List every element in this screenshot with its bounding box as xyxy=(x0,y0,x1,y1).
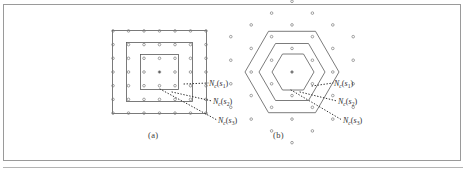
lattice-cell-marker xyxy=(311,35,314,38)
lattice-cell-marker xyxy=(332,24,335,27)
lattice-cell-marker xyxy=(332,118,335,121)
lattice-cell-marker xyxy=(205,84,208,87)
lattice-cell-marker xyxy=(291,24,294,27)
leader-a-1 xyxy=(184,83,208,84)
lattice-cell-marker xyxy=(112,84,115,87)
leader-b-3 xyxy=(291,90,342,120)
lattice-cell-marker xyxy=(158,98,161,101)
lattice-cell-marker xyxy=(230,59,233,62)
lattice-cell-marker xyxy=(158,57,161,60)
panel-a-square-lattice xyxy=(112,30,217,120)
lattice-cell-marker xyxy=(311,59,314,62)
lattice-cell-marker xyxy=(270,35,273,38)
lattice-cell-marker xyxy=(127,43,130,46)
lattice-cell-marker xyxy=(112,43,115,46)
lattice-cell-marker xyxy=(270,12,273,15)
lattice-cell-marker xyxy=(143,71,146,74)
lattice-cell-marker xyxy=(311,106,314,109)
lattice-cell-marker xyxy=(112,57,115,60)
lattice-cell-marker xyxy=(311,12,314,15)
lattice-cell-marker xyxy=(311,82,314,85)
lattice-cell-marker xyxy=(250,94,253,97)
lattice-cell-marker xyxy=(143,98,146,101)
lattice-cell-marker xyxy=(127,84,130,87)
lattice-cell-marker xyxy=(291,141,294,144)
lattice-cell-marker xyxy=(189,57,192,60)
leader-b-1 xyxy=(312,83,333,86)
lattice-cell-marker xyxy=(174,57,177,60)
lattice-cell-marker xyxy=(311,130,314,133)
lattice-cell-marker xyxy=(112,98,115,101)
lattice-cell-marker xyxy=(174,71,177,74)
lattice-cell-marker xyxy=(332,47,335,50)
label-nc-s1-panel-a: Nc(s1) xyxy=(209,79,228,89)
lattice-cell-marker xyxy=(112,71,115,74)
lattice-cell-marker xyxy=(143,43,146,46)
lattice-cell-marker xyxy=(189,71,192,74)
seed-point-a xyxy=(159,71,161,73)
panel-b-hex-lattice xyxy=(230,0,355,144)
lattice-cell-marker xyxy=(127,71,130,74)
figure-drawing xyxy=(0,0,467,174)
label-nc-s3-panel-a: Nc(s3) xyxy=(218,116,237,126)
figure-root: Nc(s1) Nc(s2) Nc(s3) Nc(s1) Nc(s2) Nc(s3… xyxy=(0,0,467,174)
label-nc-s2-panel-a: Nc(s2) xyxy=(213,97,232,107)
lattice-cell-marker xyxy=(189,98,192,101)
lattice-cell-marker xyxy=(352,35,355,38)
lattice-cell-marker xyxy=(143,57,146,60)
lattice-cell-marker xyxy=(332,94,335,97)
lattice-cell-marker xyxy=(189,43,192,46)
lattice-cell-marker xyxy=(291,47,294,50)
lattice-cell-marker xyxy=(270,106,273,109)
label-nc-s1-panel-b: Nc(s1) xyxy=(334,79,353,89)
leader-a-3 xyxy=(160,89,217,120)
lattice-cell-marker xyxy=(127,98,130,101)
caption-panel-a: (a) xyxy=(148,130,158,140)
lattice-cell-marker xyxy=(158,84,161,87)
lattice-cell-marker xyxy=(174,84,177,87)
lattice-cell-marker xyxy=(250,71,253,74)
lattice-cell-marker xyxy=(230,82,233,85)
seed-point-b xyxy=(291,71,293,73)
lattice-cell-marker xyxy=(158,43,161,46)
lattice-cell-marker xyxy=(270,59,273,62)
lattice-cell-marker xyxy=(352,59,355,62)
lattice-cell-marker xyxy=(174,98,177,101)
lattice-cell-marker xyxy=(291,94,294,97)
caption-panel-b: (b) xyxy=(273,130,284,140)
lattice-cell-marker xyxy=(250,24,253,27)
lattice-cell-marker xyxy=(174,43,177,46)
lattice-cell-marker xyxy=(250,118,253,121)
lattice-cell-marker xyxy=(127,57,130,60)
lattice-cell-marker xyxy=(230,35,233,38)
lattice-cell-marker xyxy=(143,84,146,87)
lattice-cell-marker xyxy=(189,84,192,87)
label-nc-s3-panel-b: Nc(s3) xyxy=(343,116,362,126)
lattice-cell-marker xyxy=(291,0,294,3)
lattice-cell-marker xyxy=(205,57,208,60)
lattice-cell-marker xyxy=(250,47,253,50)
lattice-cell-marker xyxy=(332,71,335,74)
lattice-cell-marker xyxy=(205,71,208,74)
lattice-cell-marker xyxy=(270,82,273,85)
lattice-cell-marker xyxy=(205,43,208,46)
label-nc-s2-panel-b: Nc(s2) xyxy=(338,97,357,107)
lattice-cell-marker xyxy=(291,118,294,121)
